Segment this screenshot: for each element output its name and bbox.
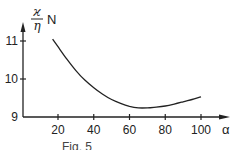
x-tick-label: 40 (87, 123, 101, 137)
y-label-denominator: η (33, 19, 41, 33)
x-tick-label: 60 (123, 123, 137, 137)
y-tick-label: 10 (5, 72, 19, 86)
y-label-numerator: ϰ (32, 5, 41, 19)
x-tick-label: 80 (159, 123, 173, 137)
data-curve (53, 39, 201, 108)
x-tick-label: 100 (191, 123, 211, 137)
x-axis-label: α (222, 122, 230, 137)
y-tick-label: 9 (11, 110, 18, 124)
y-tick-label: 11 (6, 34, 19, 48)
y-label-unit: N (47, 12, 56, 27)
x-tick-label: 20 (51, 123, 65, 137)
figure-caption: Fig. 5 (62, 140, 92, 150)
x-axis-arrow-icon (219, 115, 230, 120)
y-axis-arrow-icon (21, 22, 26, 32)
y-axis-label: ϰ η N (31, 5, 56, 33)
chart: 91011 20406080100 ϰ η N α (0, 0, 237, 150)
